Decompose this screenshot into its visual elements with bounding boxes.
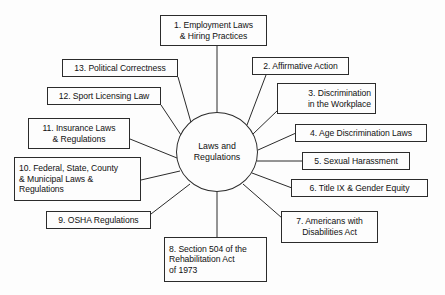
node-2-label-line-1: 2. Affirmative Action: [257, 61, 344, 72]
node-12-label-line-1: 12. Sport Licensing Law: [52, 91, 156, 102]
node-10-label-line-3: Regulations: [19, 184, 136, 195]
connector-line-4: [258, 133, 296, 150]
node-6-label-line-1: 6. Title IX & Gender Equity: [296, 183, 423, 194]
node-box-6[interactable]: 6. Title IX & Gender Equity: [291, 179, 428, 197]
node-7-label-line-2: Disabilities Act: [286, 227, 373, 238]
hub-label-line-2: Regulations: [194, 152, 240, 163]
connector-line-6: [252, 173, 292, 188]
node-box-1[interactable]: 1. Employment Laws& Hiring Practices: [160, 15, 267, 46]
node-3-label-line-1: 3. Discrimination: [282, 88, 371, 99]
node-4-label-line-1: 4. Age Discrimination Laws: [300, 128, 422, 139]
node-box-10[interactable]: 10. Federal, State, County& Municipal La…: [14, 157, 141, 201]
node-box-3[interactable]: 3. Discriminationin the Workplace: [277, 83, 376, 114]
connector-line-13: [178, 77, 192, 126]
connector-line-11: [130, 139, 177, 158]
connector-line-2: [247, 75, 266, 125]
hub-node-laws-and-regulations[interactable]: Laws and Regulations: [176, 112, 258, 192]
node-box-2[interactable]: 2. Affirmative Action: [252, 57, 349, 75]
node-box-8[interactable]: 8. Section 504 of theRehabilitation Acto…: [164, 237, 267, 282]
node-box-5[interactable]: 5. Sexual Harassment: [302, 152, 410, 170]
node-box-13[interactable]: 13. Political Correctness: [62, 59, 178, 77]
node-box-12[interactable]: 12. Sport Licensing Law: [47, 87, 161, 105]
connector-line-3: [253, 110, 278, 134]
node-3-label-line-2: in the Workplace: [282, 99, 371, 110]
node-box-9[interactable]: 9. OSHA Regulations: [46, 211, 151, 229]
connector-line-7: [243, 184, 282, 218]
node-10-label-line-1: 10. Federal, State, County: [19, 163, 136, 174]
connector-line-10: [141, 171, 180, 180]
node-9-label-line-1: 9. OSHA Regulations: [51, 215, 146, 226]
diagram-canvas: Laws and Regulations 1. Employment Laws&…: [0, 0, 445, 295]
node-5-label-line-1: 5. Sexual Harassment: [307, 156, 405, 167]
node-8-label-line-3: of 1973: [169, 265, 262, 276]
node-box-4[interactable]: 4. Age Discrimination Laws: [295, 124, 427, 142]
connector-line-9: [151, 184, 190, 214]
node-box-7[interactable]: 7. Americans withDisabilities Act: [281, 211, 378, 243]
node-8-label-line-2: Rehabilitation Act: [169, 254, 262, 265]
node-1-label-line-1: 1. Employment Laws: [165, 20, 262, 31]
node-11-label-line-2: & Regulations: [33, 134, 125, 145]
node-10-label-line-2: & Municipal Laws &: [19, 174, 136, 185]
node-7-label-line-1: 7. Americans with: [286, 216, 373, 227]
node-13-label-line-1: 13. Political Correctness: [67, 63, 173, 74]
node-8-label-line-1: 8. Section 504 of the: [169, 244, 262, 255]
hub-label-line-1: Laws and: [198, 141, 236, 152]
node-11-label-line-1: 11. Insurance Laws: [33, 123, 125, 134]
node-1-label-line-2: & Hiring Practices: [165, 31, 262, 42]
node-box-11[interactable]: 11. Insurance Laws& Regulations: [28, 118, 130, 149]
